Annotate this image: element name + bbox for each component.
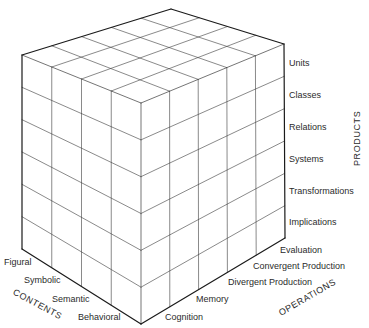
cube-edge-top-back-right: [171, 9, 284, 44]
products-label-classes: Classes: [289, 90, 321, 100]
products-label-implications: Implications: [289, 217, 337, 227]
operations-label-convergent-production: Convergent Production: [253, 261, 345, 271]
grid-line-right-horizontal: [141, 141, 285, 214]
operations-label-cognition: Cognition: [165, 312, 203, 322]
grid-line-right-horizontal: [141, 76, 284, 140]
products-label-relations: Relations: [289, 122, 327, 132]
cube-edge-right: [284, 44, 285, 238]
grid-line-top-contents: [111, 35, 256, 91]
operations-label-divergent-production: Divergent Production: [228, 277, 312, 287]
structure-of-intellect-diagram: Units Classes Relations Systems Transfor…: [0, 0, 369, 328]
contents-label-semantic: Semantic: [52, 294, 90, 304]
grid-line-top-operations: [52, 46, 170, 91]
products-axis-title: PRODUCTS: [352, 111, 362, 166]
grid-line-top-contents: [82, 27, 228, 80]
products-label-units: Units: [289, 58, 310, 68]
products-label-systems: Systems: [289, 154, 324, 164]
contents-label-figural: Figural: [4, 257, 32, 267]
grid-line-top-operations: [141, 18, 255, 56]
contents-label-behavioral: Behavioral: [78, 312, 121, 322]
operations-label-evaluation: Evaluation: [280, 245, 322, 255]
grid-line-right-horizontal: [141, 206, 285, 288]
contents-label-symbolic: Symbolic: [24, 275, 61, 285]
operations-label-memory: Memory: [196, 294, 229, 304]
grid-line-top-operations: [111, 27, 226, 67]
grid-line-right-horizontal: [141, 173, 285, 250]
products-label-transformations: Transformations: [289, 186, 354, 196]
cube-edge-top-front-right: [141, 44, 284, 103]
grid-line-right-horizontal: [141, 109, 284, 177]
grid-line-top-contents: [52, 18, 200, 67]
cube-edge-top-back-left: [22, 9, 171, 55]
